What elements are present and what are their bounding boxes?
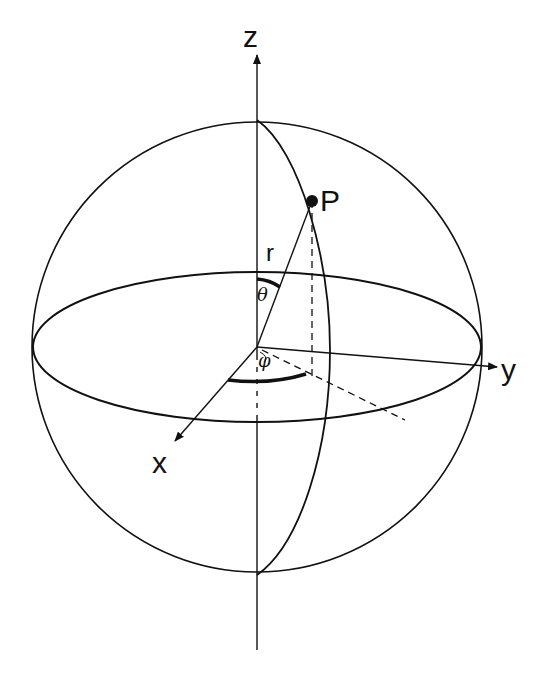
x-axis bbox=[175, 347, 257, 441]
y-axis bbox=[257, 347, 497, 367]
theta-label: θ bbox=[257, 286, 268, 304]
x-axis-label: x bbox=[152, 448, 167, 478]
point-p-marker bbox=[306, 195, 318, 207]
projection-horizontal-dashed bbox=[262, 350, 405, 420]
phi-label: φ bbox=[258, 352, 271, 370]
diagram-canvas bbox=[0, 0, 539, 678]
radius-label: r bbox=[266, 241, 274, 265]
point-p-label: P bbox=[320, 186, 340, 216]
spherical-coordinates-diagram: z P r θ φ y x bbox=[0, 0, 539, 678]
y-axis-label: y bbox=[501, 355, 516, 385]
phi-arc bbox=[228, 374, 306, 382]
z-axis-label: z bbox=[243, 22, 258, 52]
